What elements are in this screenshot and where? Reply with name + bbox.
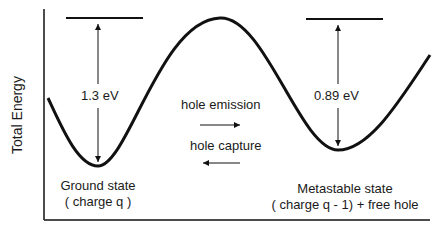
y-axis-label: Total Energy [9,70,25,160]
left-energy-label: 1.3 eV [80,88,120,103]
ground-state-label: Ground state [48,178,148,193]
ground-state-charge: ( charge q ) [48,194,148,209]
metastable-state-charge: ( charge q - 1) + free hole [255,197,435,212]
right-energy-label: 0.89 eV [313,88,360,103]
metastable-state-label: Metastable state [255,181,435,196]
hole-emission-label: hole emission [181,97,261,112]
hole-capture-label: hole capture [190,138,262,153]
